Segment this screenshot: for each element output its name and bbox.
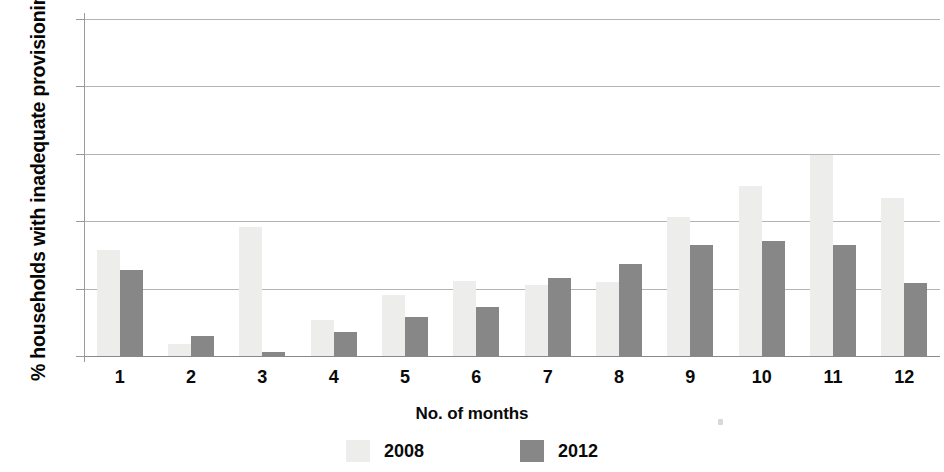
bar-2012-month-1 [120, 270, 143, 356]
x-tick-label: 9 [660, 367, 720, 388]
bar-2012-month-2 [191, 336, 214, 356]
x-tick-label: 7 [518, 367, 578, 388]
bar-2012-month-4 [334, 332, 357, 356]
bar-group [596, 19, 642, 356]
bar-2008-month-6 [453, 281, 476, 356]
bar-group [311, 19, 357, 356]
bar-2008-month-1 [97, 250, 120, 356]
bar-group [525, 19, 571, 356]
bar-2008-month-3 [239, 227, 262, 356]
bar-group [382, 19, 428, 356]
bar-group [97, 19, 143, 356]
y-tick-mark [76, 289, 85, 290]
plot-area: 0510152025 [84, 19, 940, 356]
y-tick-mark [76, 221, 85, 222]
x-tick-label: 4 [304, 367, 364, 388]
x-tick-label: 5 [375, 367, 435, 388]
bar-2008-month-10 [739, 186, 762, 356]
bar-group [239, 19, 285, 356]
y-axis-title: % households with inadequate provisionin… [27, 0, 50, 382]
y-gridline [84, 356, 940, 357]
bar-group [810, 19, 856, 356]
bar-2012-month-11 [833, 245, 856, 356]
bar-2008-month-9 [667, 217, 690, 356]
bar-2012-month-6 [476, 307, 499, 356]
chart-legend: 20082012 [0, 440, 944, 462]
bar-2012-month-8 [619, 264, 642, 356]
bar-2012-month-5 [405, 317, 428, 356]
legend-swatch-2012 [520, 440, 544, 462]
x-tick-label: 3 [232, 367, 292, 388]
scan-artifact [718, 419, 723, 425]
bar-2012-month-9 [690, 245, 713, 356]
x-tick-label: 10 [732, 367, 792, 388]
bar-2008-month-11 [810, 155, 833, 356]
bar-2012-month-12 [904, 283, 927, 356]
bar-2012-month-7 [548, 278, 571, 356]
x-tick-label: 2 [161, 367, 221, 388]
legend-item-2012: 2012 [520, 440, 598, 462]
bar-2008-month-8 [596, 282, 619, 356]
bar-2008-month-12 [881, 198, 904, 356]
x-axis-title: No. of months [0, 404, 944, 424]
x-tick-label: 6 [446, 367, 506, 388]
y-tick-mark [76, 154, 85, 155]
x-tick-label: 12 [874, 367, 934, 388]
y-tick-mark [76, 356, 85, 357]
x-tick-label: 1 [90, 367, 150, 388]
bar-2008-month-5 [382, 295, 405, 356]
legend-swatch-2008 [346, 440, 370, 462]
legend-label-2008: 2008 [384, 441, 424, 462]
bar-group [739, 19, 785, 356]
bar-2008-month-4 [311, 320, 334, 356]
y-tick-mark [76, 86, 85, 87]
bar-group [453, 19, 499, 356]
bar-group [168, 19, 214, 356]
bar-chart-figure: % households with inadequate provisionin… [0, 0, 944, 472]
x-tick-label: 11 [803, 367, 863, 388]
bar-2012-month-10 [762, 241, 785, 356]
legend-label-2012: 2012 [558, 441, 598, 462]
bar-2008-month-7 [525, 285, 548, 356]
y-axis-line [84, 13, 85, 362]
bar-group [667, 19, 713, 356]
y-tick-mark [76, 19, 85, 20]
bar-2008-month-2 [168, 344, 191, 356]
x-tick-label: 8 [589, 367, 649, 388]
bar-group [881, 19, 927, 356]
bar-2012-month-3 [262, 352, 285, 356]
legend-item-2008: 2008 [346, 440, 424, 462]
